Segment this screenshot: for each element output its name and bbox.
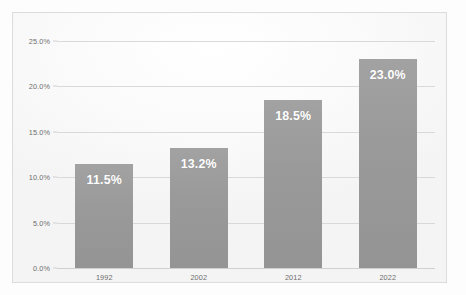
chart-canvas: 25.0%20.0%15.0%10.0%5.0%0.0% 11.5%13.2%1… xyxy=(0,0,466,295)
bar[interactable]: 23.0% xyxy=(359,59,417,268)
y-axis-tick-label: 5.0% xyxy=(33,218,50,227)
y-axis-tickmark xyxy=(53,177,57,178)
bar[interactable]: 11.5% xyxy=(75,164,133,268)
y-axis-tick-label: 25.0% xyxy=(29,37,50,46)
bar-value-label: 23.0% xyxy=(359,68,417,82)
x-axis-tick-label: 2002 xyxy=(152,273,247,282)
y-axis-tickmark xyxy=(53,268,57,269)
x-axis-tick-label: 1992 xyxy=(57,273,152,282)
y-axis-tick-label: 10.0% xyxy=(29,173,50,182)
bar-value-label: 11.5% xyxy=(75,173,133,187)
y-axis-tickmark xyxy=(53,41,57,42)
x-axis-tick-label: 2022 xyxy=(341,273,436,282)
gridline xyxy=(57,41,435,42)
y-axis-tickmark xyxy=(53,131,57,132)
y-axis-tickmark xyxy=(53,86,57,87)
y-axis-tick-label: 0.0% xyxy=(33,264,50,273)
bar-value-label: 13.2% xyxy=(170,157,228,171)
bar[interactable]: 18.5% xyxy=(264,100,322,268)
y-axis-tick-label: 20.0% xyxy=(29,82,50,91)
y-axis-tickmark xyxy=(53,222,57,223)
bar-value-label: 18.5% xyxy=(264,109,322,123)
gridline xyxy=(57,268,435,269)
y-axis-tick-label: 15.0% xyxy=(29,127,50,136)
bar[interactable]: 13.2% xyxy=(170,148,228,268)
chart-frame: 25.0%20.0%15.0%10.0%5.0%0.0% 11.5%13.2%1… xyxy=(12,12,447,283)
x-axis-tick-label: 2012 xyxy=(246,273,341,282)
plot-area: 25.0%20.0%15.0%10.0%5.0%0.0% 11.5%13.2%1… xyxy=(57,21,435,273)
